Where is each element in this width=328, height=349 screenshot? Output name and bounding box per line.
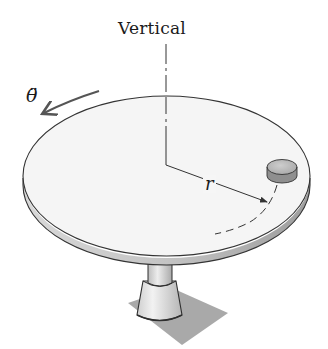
small-block bbox=[267, 160, 297, 184]
diagram-canvas bbox=[0, 0, 328, 349]
angular-acceleration-label: θ̈ bbox=[26, 84, 37, 106]
pedestal bbox=[137, 262, 182, 321]
turntable-diagram: Vertical θ̈ r bbox=[0, 0, 328, 349]
radius-label: r bbox=[203, 175, 216, 193]
vertical-axis-label: Vertical bbox=[118, 18, 186, 38]
